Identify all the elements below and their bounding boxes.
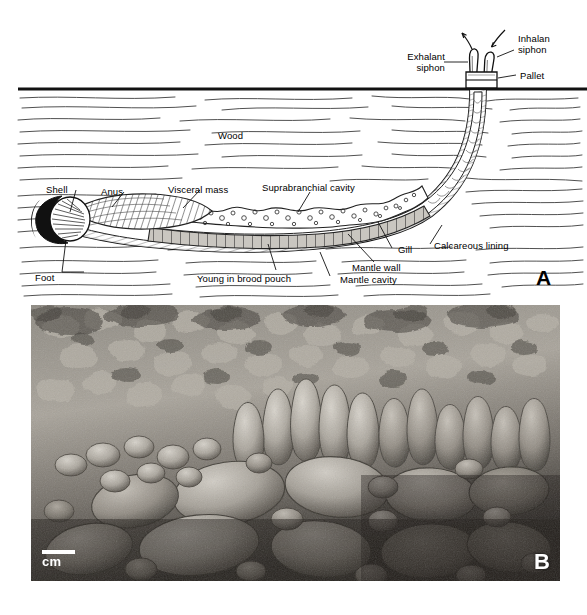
label-gill: Gill xyxy=(398,244,412,255)
label-visceral-mass: Visceral mass xyxy=(168,184,228,195)
label-shell: Shell xyxy=(46,184,68,195)
label-mantle-cavity: Mantle cavity xyxy=(340,274,397,285)
inhalant-flow-arrow xyxy=(492,30,506,47)
label-foot: Foot xyxy=(35,272,54,283)
panel-b-photograph: cm B xyxy=(31,305,560,581)
figure-root: Exhalant siphon Inhalan siphon Pallet Wo… xyxy=(0,0,587,615)
exhalant-flow-arrow xyxy=(462,33,472,49)
shell-and-foot xyxy=(31,196,90,244)
scale-bar-label: cm xyxy=(42,555,75,569)
label-young-in-brood-pouch: Young in brood pouch xyxy=(197,273,291,284)
panel-a-letter: A xyxy=(536,266,551,290)
label-inhalant-siphon: Inhalan siphon xyxy=(518,33,550,55)
pallet-shape xyxy=(466,72,497,88)
label-wood: Wood xyxy=(218,130,243,141)
photo-grain xyxy=(31,305,560,581)
label-pallet: Pallet xyxy=(520,70,544,81)
label-mantle-wall: Mantle wall xyxy=(352,262,401,273)
label-calcareous-lining: Calcareous lining xyxy=(434,240,509,251)
label-anus: Anus xyxy=(101,186,123,197)
foot-disc xyxy=(50,197,90,241)
panel-b-photo-artwork xyxy=(31,305,560,581)
scale-bar: cm xyxy=(42,550,75,569)
panel-a-artwork xyxy=(0,0,587,305)
label-exhalant-siphon: Exhalant siphon xyxy=(399,52,445,73)
panel-a-diagram: Exhalant siphon Inhalan siphon Pallet Wo… xyxy=(0,0,587,305)
panel-b-letter: B xyxy=(534,549,550,575)
label-suprabranchial-cavity: Suprabranchial cavity xyxy=(262,182,355,193)
